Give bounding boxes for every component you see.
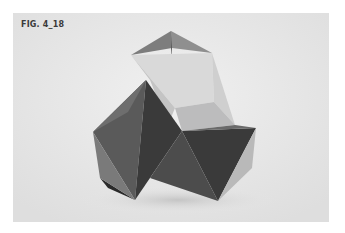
figure-label: FIG. 4_18 <box>21 20 64 29</box>
figure-panel: FIG. 4_18 <box>13 13 329 222</box>
sculpture-image <box>13 13 329 222</box>
